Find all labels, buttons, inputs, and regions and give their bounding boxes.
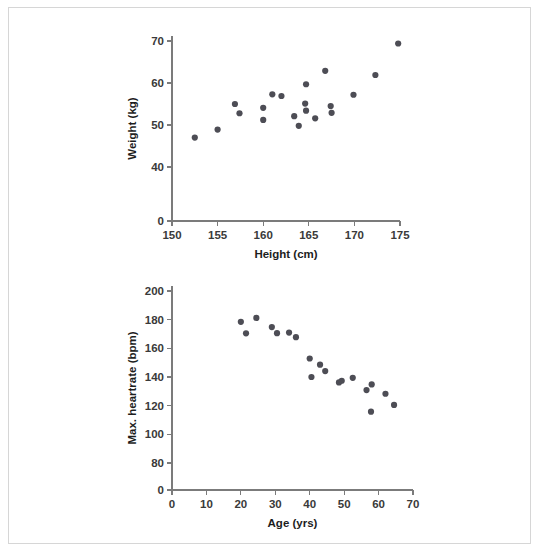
y-axis-title: Weight (kg) [126,97,138,160]
x-tick-label: 70 [407,498,420,510]
data-point [363,387,369,393]
y-tick-label: 50 [151,119,164,131]
data-point [391,402,397,408]
y-tick-label: 0 [158,215,164,227]
y-tick-label: 120 [145,400,164,412]
data-point [192,135,198,141]
y-tick-label: 60 [151,77,164,89]
data-point [238,319,244,325]
y-tick-label: 160 [145,342,164,354]
x-tick-label: 60 [372,498,385,510]
data-point [269,91,275,97]
y-tick-label: 40 [151,161,164,173]
y-tick-label: 70 [151,35,164,47]
data-point [308,374,314,380]
data-point [350,92,356,98]
y-tick-label: 200 [145,285,164,297]
x-tick-label: 170 [345,229,364,241]
data-point [328,103,334,109]
x-axis-title: Age (yrs) [268,517,318,529]
data-point [350,375,356,381]
data-point [260,105,266,111]
data-point [291,113,297,119]
y-axis-title: Max. heartrate (bpm) [126,331,138,444]
data-point [339,378,345,384]
data-point-group [238,315,397,415]
data-point [368,409,374,415]
data-point-group [192,40,402,140]
data-point [232,101,238,107]
data-point [302,100,308,106]
data-point [322,368,328,374]
y-tick-label: 140 [145,371,164,383]
x-tick-label: 150 [162,229,181,241]
data-point [303,108,309,114]
age-heartrate-plot-area: 080100120140160180200010203040506070Age … [0,272,470,547]
data-point [260,117,266,123]
data-point [395,40,401,46]
data-point [307,355,313,361]
data-point [296,123,302,129]
y-tick-label: 0 [158,484,164,496]
data-point [329,110,335,116]
x-tick-label: 50 [338,498,351,510]
data-point [317,362,323,368]
data-point [278,93,284,99]
data-point [243,330,249,336]
figure-page: 040506070150155160165170175Height (cm)We… [0,0,539,551]
data-point [286,329,292,335]
data-point [274,330,280,336]
x-tick-label: 155 [208,229,228,241]
data-point [322,68,328,74]
x-tick-label: 165 [299,229,319,241]
x-tick-label: 10 [200,498,213,510]
chart-age-heartrate: 080100120140160180200010203040506070Age … [0,272,470,547]
data-point [269,324,275,330]
x-tick-label: 0 [169,498,175,510]
y-tick-label: 180 [145,314,164,326]
data-point [253,315,259,321]
x-tick-label: 40 [303,498,316,510]
data-point [303,81,309,87]
data-point [215,127,221,133]
y-tick-label: 80 [151,457,164,469]
data-point [382,391,388,397]
x-tick-label: 30 [269,498,282,510]
x-tick-label: 175 [390,229,410,241]
data-point [236,110,242,116]
data-point [372,72,378,78]
chart-height-weight: 040506070150155160165170175Height (cm)We… [0,8,470,263]
data-point [369,381,375,387]
data-point [293,334,299,340]
x-tick-label: 20 [234,498,247,510]
height-weight-plot-area: 040506070150155160165170175Height (cm)We… [0,8,470,263]
y-tick-label: 100 [145,428,164,440]
x-axis-title: Height (cm) [254,248,317,260]
x-tick-label: 160 [254,229,273,241]
data-point [312,115,318,121]
